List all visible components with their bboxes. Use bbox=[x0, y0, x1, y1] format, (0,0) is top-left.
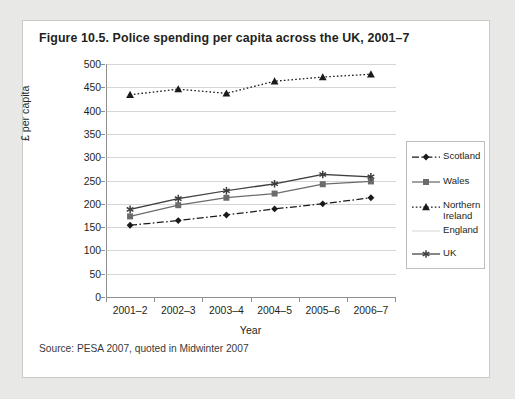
data-point-marker bbox=[126, 91, 134, 98]
y-axis-tick-label: 400 bbox=[67, 105, 101, 116]
y-axis-tick-mark bbox=[101, 181, 105, 182]
legend-item-uk[interactable]: UK bbox=[411, 247, 483, 261]
y-axis-tick-label: 500 bbox=[67, 59, 101, 70]
data-point-marker bbox=[272, 191, 278, 197]
y-axis-tick-mark bbox=[101, 157, 105, 158]
y-axis-tick-mark bbox=[101, 274, 105, 275]
series-uk bbox=[127, 171, 374, 214]
y-axis-tick-mark bbox=[101, 227, 105, 228]
y-axis-tick-mark bbox=[101, 204, 105, 205]
x-axis-tick-mark bbox=[347, 298, 348, 302]
data-point-marker bbox=[175, 217, 182, 224]
series-wales bbox=[127, 178, 374, 219]
y-axis-tick-mark bbox=[101, 87, 105, 88]
data-point-marker bbox=[127, 222, 134, 229]
legend-label: England bbox=[443, 224, 478, 235]
legend-label: UK bbox=[443, 247, 456, 258]
data-point-marker bbox=[223, 195, 229, 201]
x-axis-tick-mark bbox=[251, 298, 252, 302]
series-line bbox=[130, 175, 371, 209]
legend-swatch-icon bbox=[411, 200, 441, 214]
y-axis-tick-group: 050100150200250300350400450500 bbox=[63, 64, 101, 297]
y-axis-tick-label: 150 bbox=[67, 222, 101, 233]
data-point-marker bbox=[320, 181, 326, 187]
x-axis-tick-label: 2006–7 bbox=[341, 305, 401, 316]
series-line bbox=[130, 74, 371, 95]
legend-label: Wales bbox=[443, 175, 469, 186]
data-point-marker bbox=[127, 213, 133, 219]
legend-item-northern-ireland[interactable]: NorthernIreland bbox=[411, 200, 483, 214]
legend-item-wales[interactable]: Wales bbox=[411, 175, 483, 189]
y-axis-tick-label: 250 bbox=[67, 175, 101, 186]
x-axis-title: Year bbox=[106, 324, 395, 336]
series-scotland bbox=[127, 194, 375, 228]
legend-label-line2: Ireland bbox=[443, 211, 480, 222]
y-axis-tick-label: 350 bbox=[67, 128, 101, 139]
chart-legend: ScotlandWalesNorthernIrelandEnglandUK bbox=[406, 141, 485, 269]
y-axis-tick-mark bbox=[101, 64, 105, 65]
legend-swatch-icon bbox=[411, 224, 441, 238]
source-note: Source: PESA 2007, quoted in Midwinter 2… bbox=[39, 343, 249, 354]
y-axis-tick-label: 300 bbox=[67, 152, 101, 163]
y-axis-tick-label: 200 bbox=[67, 198, 101, 209]
legend-label: NorthernIreland bbox=[443, 200, 480, 221]
legend-swatch-icon bbox=[411, 247, 441, 261]
data-point-marker bbox=[368, 194, 375, 201]
series-northern-ireland bbox=[126, 70, 375, 98]
data-point-marker bbox=[175, 202, 181, 208]
x-axis-tick-mark bbox=[106, 298, 107, 302]
x-axis-tick-mark bbox=[202, 298, 203, 302]
series-layer bbox=[106, 64, 395, 297]
data-point-marker bbox=[271, 206, 278, 213]
y-axis-tick-label: 450 bbox=[67, 82, 101, 93]
y-axis-tick-label: 50 bbox=[67, 268, 101, 279]
x-axis-tick-mark bbox=[154, 298, 155, 302]
y-axis-tick-label: 0 bbox=[67, 292, 101, 303]
y-axis-tick-label: 100 bbox=[67, 245, 101, 256]
legend-item-england[interactable]: England bbox=[411, 224, 483, 238]
x-axis-tick-mark bbox=[299, 298, 300, 302]
y-axis-tick-mark bbox=[101, 250, 105, 251]
series-england bbox=[130, 175, 371, 209]
legend-swatch-icon bbox=[411, 150, 441, 164]
y-axis-tick-mark bbox=[101, 297, 105, 298]
x-axis-tick-mark bbox=[395, 298, 396, 302]
data-point-marker bbox=[319, 200, 326, 207]
legend-swatch-icon bbox=[411, 175, 441, 189]
y-axis-tick-mark bbox=[101, 111, 105, 112]
data-point-marker bbox=[174, 85, 182, 92]
legend-item-scotland[interactable]: Scotland bbox=[411, 150, 483, 164]
figure-card: Figure 10.5. Police spending per capita … bbox=[22, 20, 490, 378]
series-line bbox=[130, 174, 371, 209]
y-axis-title: £ per capita bbox=[19, 86, 31, 141]
data-point-marker bbox=[223, 212, 230, 219]
y-axis-tick-mark bbox=[101, 134, 105, 135]
legend-label: Scotland bbox=[443, 150, 480, 161]
